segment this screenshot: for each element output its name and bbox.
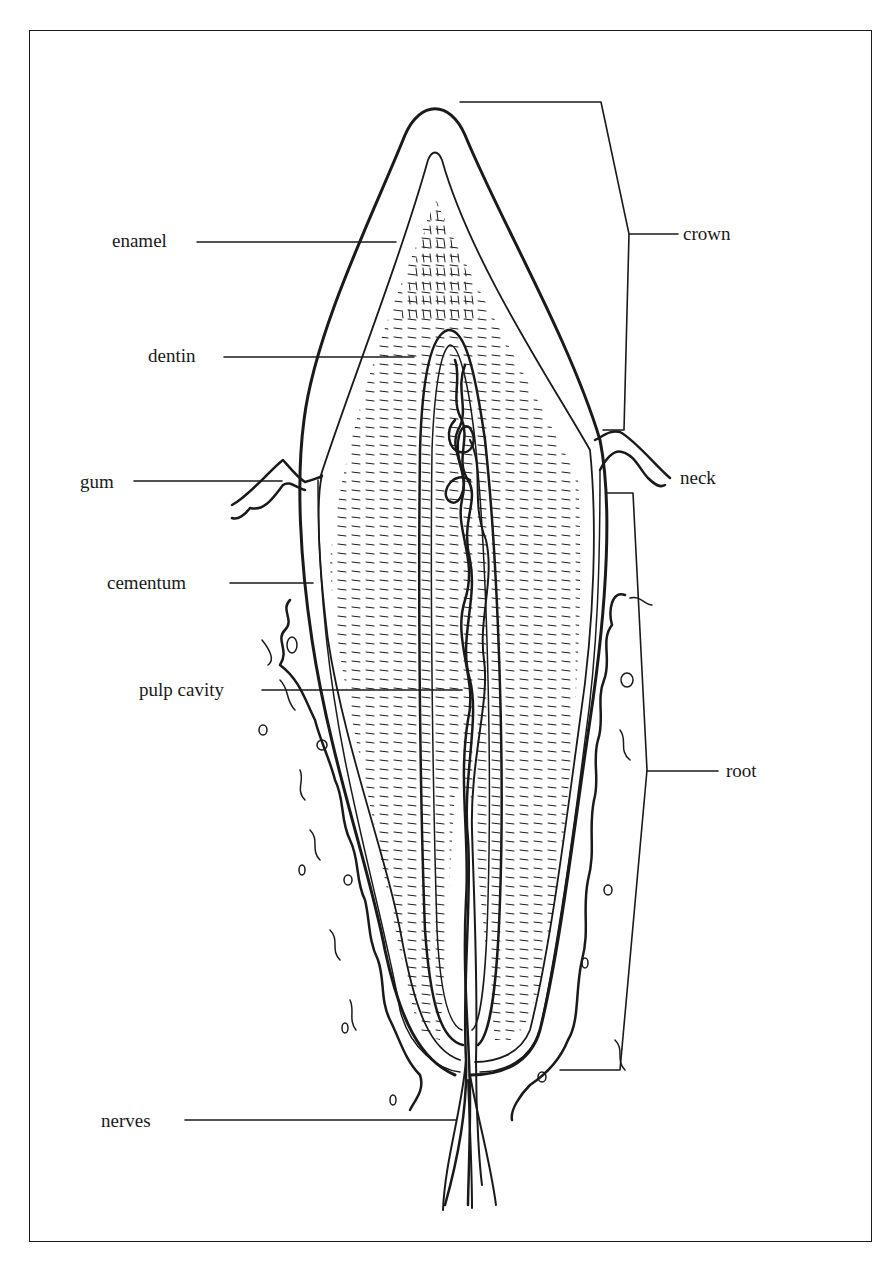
bone-pore (342, 1023, 348, 1033)
bone-left-squiggles (262, 640, 356, 1030)
bone-pore (259, 725, 267, 735)
label-nerves: nerves (101, 1111, 151, 1130)
label-crown: crown (683, 224, 730, 243)
bone-pore (299, 865, 305, 875)
bone-pore (621, 673, 633, 687)
bone-right-squiggles (615, 597, 652, 1070)
label-pulp-cavity: pulp cavity (139, 680, 224, 699)
label-cementum: cementum (107, 573, 186, 592)
label-root: root (726, 761, 757, 780)
tooth-diagram (0, 0, 896, 1281)
bone-pore (582, 958, 588, 968)
label-neck: neck (680, 468, 716, 487)
bone-pore (604, 885, 612, 895)
label-enamel: enamel (112, 231, 167, 250)
label-dentin: dentin (148, 346, 196, 365)
label-gum: gum (80, 472, 114, 491)
bone-pore (287, 637, 297, 653)
gum-left (232, 460, 322, 518)
bone-pore (344, 875, 352, 885)
bone-pore (390, 1095, 396, 1105)
